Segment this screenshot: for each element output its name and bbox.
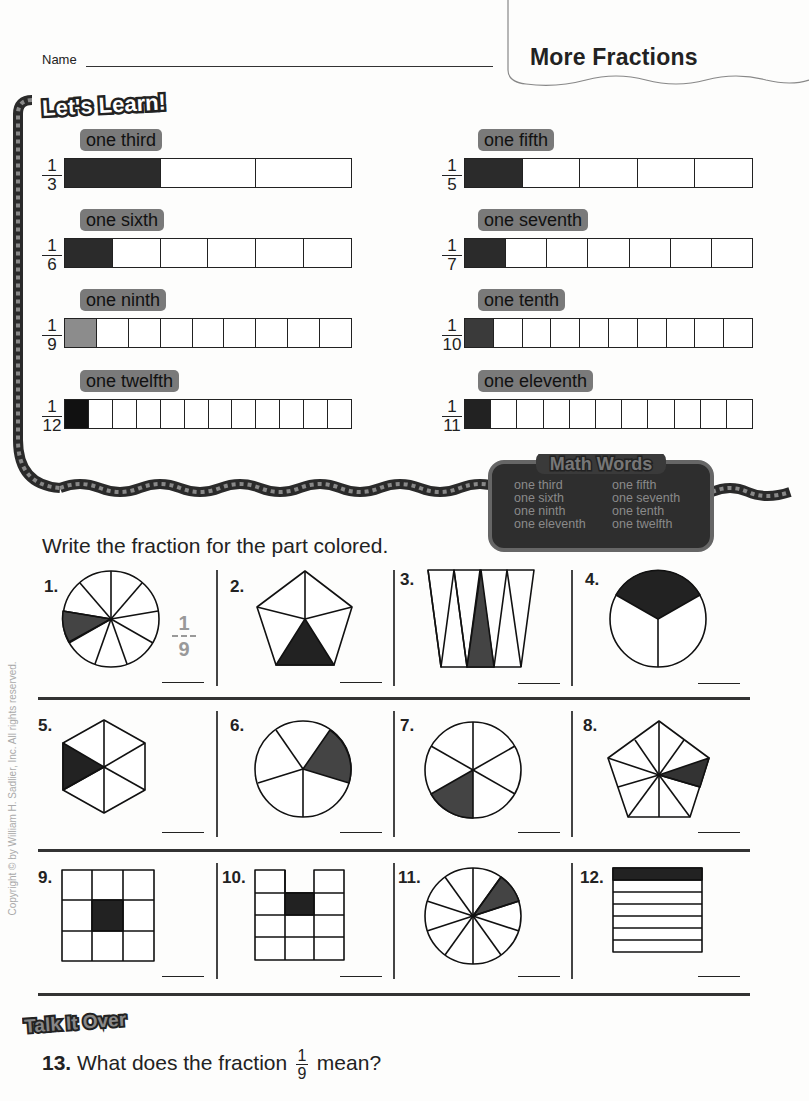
shape-circle-thirds xyxy=(610,570,706,667)
shape-circle-sixths xyxy=(425,722,521,818)
shape-grid-notched xyxy=(255,870,344,960)
shape-circle-tenths xyxy=(425,868,521,964)
shape-grid-3x3 xyxy=(62,870,154,961)
shape-circle-fifths xyxy=(255,721,351,817)
shape-pentagon-fifths xyxy=(257,571,352,665)
svg-text:Talk It Over: Talk It Over xyxy=(24,1009,128,1037)
inline-fraction: 1 9 xyxy=(296,1048,308,1081)
shape-stripes-sevenths xyxy=(613,868,702,952)
copyright-notice: Copyright © by William H. Sadlier, Inc. … xyxy=(7,616,18,916)
shape-hexagon-sixths xyxy=(63,720,145,813)
talk-it-over-banner: Talk It Over xyxy=(22,1003,132,1039)
shape-pentagon-tenths xyxy=(608,721,709,817)
fraction-shapes xyxy=(0,0,809,1101)
question-13: 13. What does the fraction 1 9 mean? xyxy=(42,1048,381,1081)
shape-circle-ninths xyxy=(63,571,159,667)
shape-trapezoid-triangles xyxy=(428,570,534,667)
